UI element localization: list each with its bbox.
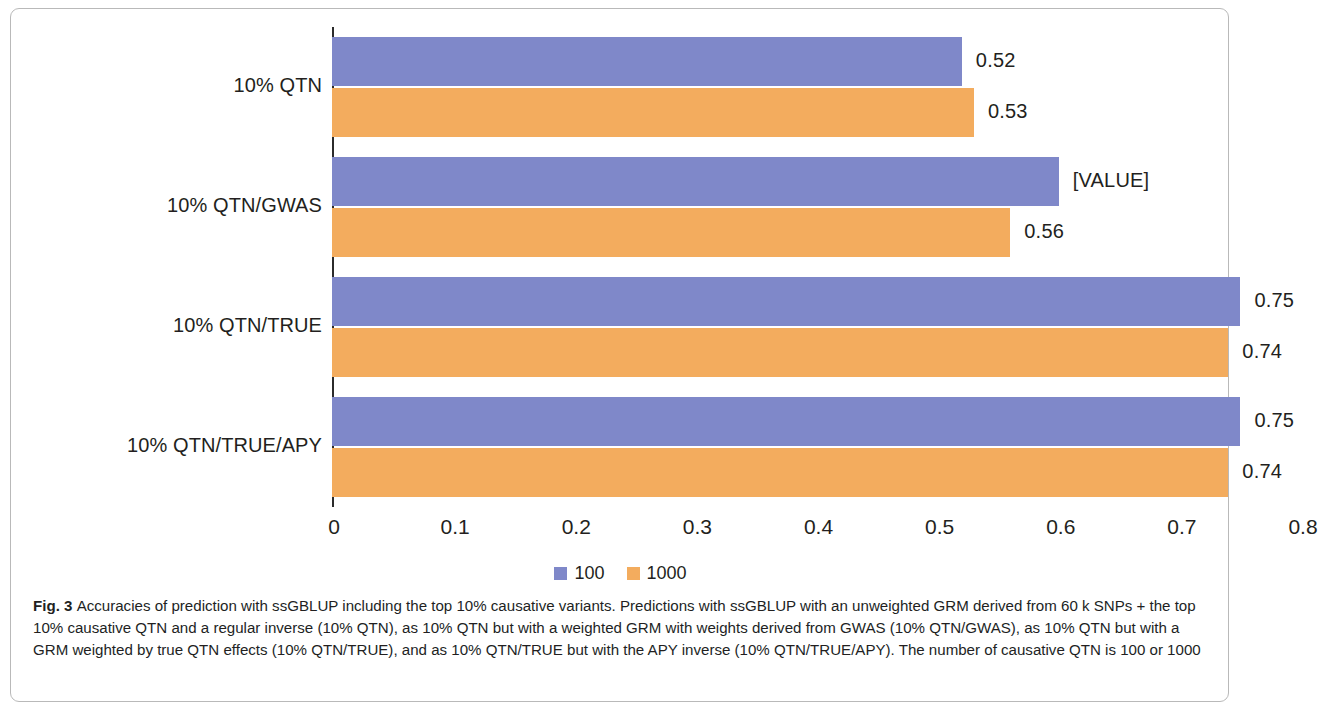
bar-value-label-100-3: 0.75 <box>1254 289 1294 312</box>
bar-value-label-1000-2: 0.56 <box>1024 220 1064 243</box>
legend-swatch-1000 <box>627 567 640 580</box>
x-tick-label-0: 0 <box>328 515 340 539</box>
category-label-2: 10% QTN/GWAS <box>167 194 322 217</box>
bar-value-label-100-2: [VALUE] <box>1073 169 1150 192</box>
x-tick-label-6: 0.6 <box>1046 515 1075 539</box>
chart-area: 10% QTN10% QTN/GWAS10% QTN/TRUE10% QTN/T… <box>11 9 1230 589</box>
x-tick-label-3: 0.3 <box>683 515 712 539</box>
caption-text: Accuracies of prediction with ssGBLUP in… <box>33 597 1201 658</box>
figure-frame: 10% QTN10% QTN/GWAS10% QTN/TRUE10% QTN/T… <box>10 8 1229 702</box>
plot-area: 0.520.53[VALUE]0.560.750.740.750.74 <box>332 27 1122 507</box>
value-axis-tick-labels: 00.10.20.30.40.50.60.70.8 <box>332 507 1132 547</box>
category-label-4: 10% QTN/TRUE/APY <box>127 434 322 457</box>
bar-value-label-1000-1: 0.53 <box>988 100 1028 123</box>
category-axis-labels: 10% QTN10% QTN/GWAS10% QTN/TRUE10% QTN/T… <box>41 27 322 507</box>
x-tick-label-1: 0.1 <box>441 515 470 539</box>
bar-1000-2 <box>332 208 1010 257</box>
bar-1000-4 <box>332 448 1228 497</box>
bar-100-3 <box>332 277 1240 326</box>
x-tick-label-2: 0.2 <box>562 515 591 539</box>
x-tick-label-5: 0.5 <box>925 515 954 539</box>
bar-value-label-1000-4: 0.74 <box>1242 460 1282 483</box>
legend-label-100: 100 <box>574 563 604 584</box>
x-tick-label-4: 0.4 <box>804 515 833 539</box>
chart-legend: 1001000 <box>11 558 1230 588</box>
figure-number: Fig. 3 <box>33 597 72 614</box>
bar-100-2 <box>332 157 1059 206</box>
bar-100-1 <box>332 37 962 86</box>
bar-value-label-1000-3: 0.74 <box>1242 340 1282 363</box>
x-tick-label-7: 0.7 <box>1167 515 1196 539</box>
legend-label-1000: 1000 <box>647 563 687 584</box>
bar-100-4 <box>332 397 1240 446</box>
legend-entry-100[interactable]: 100 <box>554 563 604 584</box>
bar-1000-1 <box>332 88 974 137</box>
figure-caption: Fig. 3 Accuracies of prediction with ssG… <box>33 595 1213 662</box>
category-label-1: 10% QTN <box>233 74 322 97</box>
bar-value-label-100-4: 0.75 <box>1254 409 1294 432</box>
category-label-3: 10% QTN/TRUE <box>173 314 322 337</box>
bar-value-label-100-1: 0.52 <box>976 49 1016 72</box>
x-tick-label-8: 0.8 <box>1288 515 1317 539</box>
legend-swatch-100 <box>554 567 567 580</box>
legend-entry-1000[interactable]: 1000 <box>627 563 687 584</box>
bar-1000-3 <box>332 328 1228 377</box>
